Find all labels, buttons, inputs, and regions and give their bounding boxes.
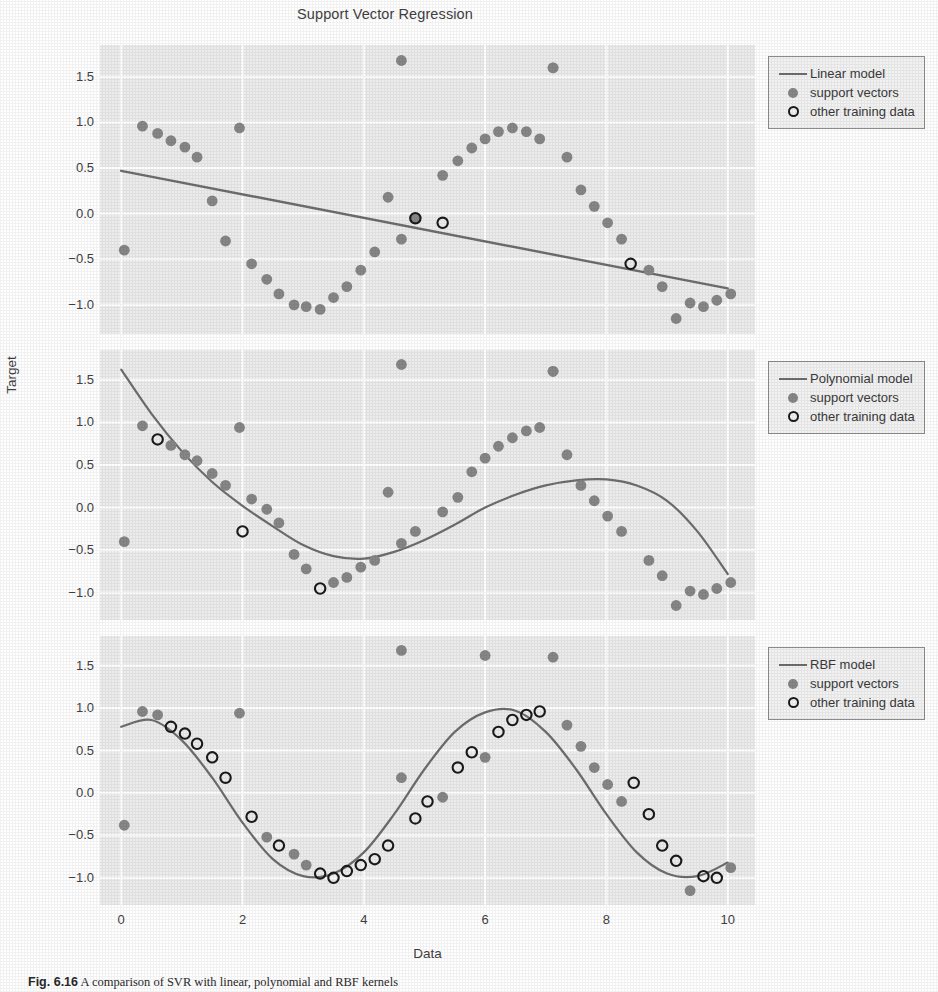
support-vector-point bbox=[301, 860, 312, 871]
support-vector-point bbox=[466, 143, 477, 154]
support-vector-point bbox=[725, 577, 736, 588]
support-vector-points bbox=[119, 359, 736, 611]
other-training-data-point bbox=[207, 752, 217, 762]
legend-label-model: RBF model bbox=[810, 657, 875, 672]
x-tick-label: 10 bbox=[706, 912, 750, 927]
legend-row: RBF model bbox=[776, 655, 915, 674]
gridlines bbox=[100, 45, 755, 334]
support-vector-point bbox=[437, 792, 448, 803]
legend-panel-rbf: RBF modelsupport vectorsother training d… bbox=[768, 647, 925, 720]
support-vector-point bbox=[616, 234, 627, 245]
support-vector-point bbox=[396, 55, 407, 66]
support-vector-point bbox=[521, 426, 532, 437]
legend-label-support-vectors: support vectors bbox=[810, 676, 899, 691]
y-tick-label: −0.5 bbox=[40, 543, 94, 556]
support-vector-point bbox=[616, 796, 627, 807]
support-vector-point bbox=[589, 495, 600, 506]
other-training-data-point bbox=[644, 809, 654, 819]
legend-dot-swatch-glyph bbox=[788, 88, 798, 98]
support-vector-point bbox=[576, 741, 587, 752]
support-vector-point bbox=[466, 466, 477, 477]
legend-dot-swatch bbox=[776, 679, 810, 689]
legend-circle-swatch bbox=[776, 697, 810, 708]
support-vector-point bbox=[137, 706, 148, 717]
legend-circle-swatch-glyph bbox=[788, 411, 799, 422]
support-vector-point bbox=[328, 577, 339, 588]
legend-label-model: Polynomial model bbox=[810, 371, 913, 386]
legend-dot-swatch bbox=[776, 88, 810, 98]
legend-circle-swatch-glyph bbox=[788, 106, 799, 117]
legend-label-model: Linear model bbox=[810, 66, 885, 81]
legend-row: Linear model bbox=[776, 64, 915, 83]
legend-circle-swatch bbox=[776, 411, 810, 422]
legend-row: support vectors bbox=[776, 674, 915, 693]
support-vector-point bbox=[493, 126, 504, 137]
support-vector-point bbox=[137, 121, 148, 132]
legend-dot-swatch-glyph bbox=[788, 393, 798, 403]
support-vector-point bbox=[289, 849, 300, 860]
other-training-data-point bbox=[629, 778, 639, 788]
legend-label-support-vectors: support vectors bbox=[810, 85, 899, 100]
support-vector-point bbox=[576, 480, 587, 491]
other-training-data-point bbox=[467, 747, 477, 757]
y-tick-label: −0.5 bbox=[40, 252, 94, 265]
y-tick-label: 0.0 bbox=[40, 501, 94, 514]
support-vector-point bbox=[671, 313, 682, 324]
support-vector-point bbox=[396, 538, 407, 549]
support-vector-point bbox=[301, 301, 312, 312]
support-vector-point bbox=[671, 600, 682, 611]
support-vector-point bbox=[698, 301, 709, 312]
support-vector-point bbox=[341, 572, 352, 583]
support-vector-point bbox=[576, 185, 587, 196]
support-vector-point bbox=[119, 820, 130, 831]
figure-caption: Fig. 6.16 A comparison of SVR with linea… bbox=[28, 974, 908, 992]
legend-line-swatch bbox=[776, 73, 810, 75]
support-vector-point bbox=[246, 494, 257, 505]
support-vector-point bbox=[315, 304, 326, 315]
support-vector-point bbox=[369, 247, 380, 258]
other-training-data-point bbox=[180, 728, 190, 738]
y-tick-label: 0.5 bbox=[40, 458, 94, 471]
support-vector-point bbox=[234, 123, 245, 134]
support-vector-point bbox=[192, 152, 203, 163]
support-vector-point bbox=[480, 752, 491, 763]
support-vector-point bbox=[548, 366, 559, 377]
support-vector-point bbox=[152, 710, 163, 721]
legend-row: other training data bbox=[776, 102, 915, 121]
support-vector-point bbox=[725, 288, 736, 299]
support-vector-point bbox=[711, 295, 722, 306]
legend-row: other training data bbox=[776, 693, 915, 712]
support-vector-point bbox=[220, 480, 231, 491]
legend-label-other-training-data: other training data bbox=[810, 104, 915, 119]
support-vector-point bbox=[396, 772, 407, 783]
figure-title: Support Vector Regression bbox=[0, 6, 770, 22]
support-vector-point bbox=[355, 562, 366, 573]
support-vector-point bbox=[643, 265, 654, 276]
other-training-data-point bbox=[422, 796, 432, 806]
support-vector-point bbox=[137, 420, 148, 431]
y-tick-label: −1.0 bbox=[40, 298, 94, 311]
support-vector-point bbox=[562, 720, 573, 731]
other-training-data-point bbox=[410, 813, 420, 823]
support-vector-point bbox=[437, 506, 448, 517]
other-training-data-point bbox=[274, 840, 284, 850]
support-vector-point bbox=[685, 298, 696, 309]
legend-row: support vectors bbox=[776, 83, 915, 102]
support-vector-point bbox=[534, 422, 545, 433]
support-vector-point bbox=[289, 299, 300, 310]
support-vector-point bbox=[643, 555, 654, 566]
support-vector-point bbox=[452, 155, 463, 166]
support-vector-point bbox=[685, 885, 696, 896]
support-vector-point bbox=[207, 195, 218, 206]
model-line bbox=[121, 171, 727, 289]
y-tick-label: 1.5 bbox=[40, 70, 94, 83]
y-tick-label: 1.0 bbox=[40, 701, 94, 714]
support-vector-point bbox=[192, 455, 203, 466]
support-vector-point bbox=[685, 586, 696, 597]
other-training-data-points bbox=[152, 434, 325, 593]
y-tick-label: 0.5 bbox=[40, 161, 94, 174]
support-vector-point bbox=[274, 288, 285, 299]
support-vector-point bbox=[341, 281, 352, 292]
legend-panel-polynomial: Polynomial modelsupport vectorsother tra… bbox=[768, 361, 925, 434]
y-tick-label: 0.5 bbox=[40, 744, 94, 757]
